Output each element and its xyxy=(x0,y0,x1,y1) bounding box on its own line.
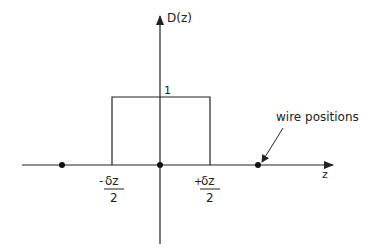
box-height-label: 1 xyxy=(164,84,171,97)
diagram-canvas: D(z) z 1 wire positions - δz 2 + δz 2 xyxy=(0,0,381,251)
left-edge-numerator: δz xyxy=(105,174,119,188)
left-edge-denominator: 2 xyxy=(110,191,118,205)
right-edge-numerator: δz xyxy=(201,174,215,188)
annotation-arrow xyxy=(262,128,283,162)
right-edge-denominator: 2 xyxy=(206,191,214,205)
box-function xyxy=(112,97,210,165)
wire-dot xyxy=(157,162,163,168)
annotation-label: wire positions xyxy=(276,110,359,124)
wire-dot xyxy=(255,162,261,168)
x-axis-label: z xyxy=(322,168,328,181)
left-edge-sign: - xyxy=(99,174,103,188)
y-axis-label: D(z) xyxy=(167,11,192,25)
wire-dot xyxy=(59,162,65,168)
